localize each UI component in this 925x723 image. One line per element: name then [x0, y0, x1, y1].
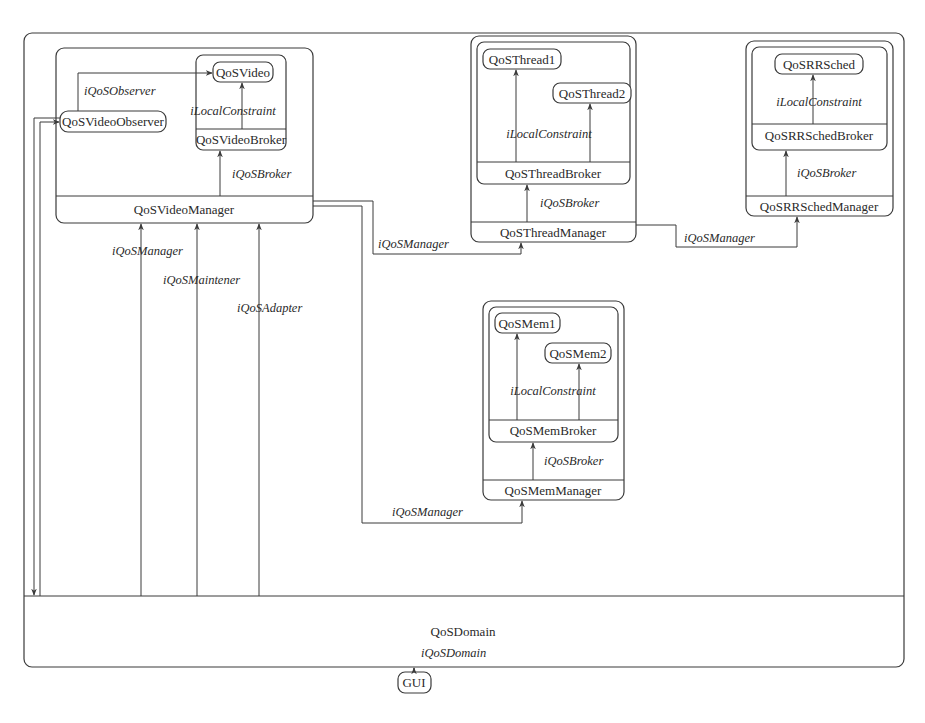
mem-manager-component: QoSMemManager QoSMemBroker QoSMem1 QoSMe…: [483, 301, 624, 500]
gui-component: GUI iQoSDomain: [398, 646, 486, 693]
thread-broker-interface: iQoSBroker: [540, 196, 599, 210]
rrsched-broker-label: QoSRRSchedBroker: [765, 128, 874, 143]
thread-manager-label: QoSThreadManager: [500, 225, 607, 240]
thread2-label: QoSThread2: [559, 86, 625, 101]
gui-interface: iQoSDomain: [421, 646, 486, 660]
domain-link-manager: iQoSManager: [112, 244, 183, 258]
rrsched-manager-label: QoSRRSchedManager: [760, 199, 879, 214]
video-constraint-interface: iLocalConstraint: [190, 104, 276, 118]
domain-link-maintener: iQoSMaintener: [163, 273, 240, 287]
rrsched-resource-label: QoSRRSched: [783, 57, 856, 72]
thread-link-interface: iQoSManager: [378, 237, 449, 251]
thread-constraint-interface: iLocalConstraint: [506, 127, 592, 141]
mem-broker-interface: iQoSBroker: [544, 454, 603, 468]
video-resource-label: QoSVideo: [216, 65, 270, 80]
rrsched-link-interface: iQoSManager: [684, 231, 755, 245]
rrsched-constraint-interface: iLocalConstraint: [776, 95, 862, 109]
qos-architecture-diagram: QoSDomain QoSVideoManager QoSVideoBroker…: [0, 0, 925, 723]
thread-broker-label: QoSThreadBroker: [505, 166, 602, 181]
gui-label: GUI: [402, 675, 425, 690]
domain-link-adapter: iQoSAdapter: [237, 301, 302, 315]
video-broker-interface: iQoSBroker: [232, 167, 291, 181]
thread1-label: QoSThread1: [489, 52, 555, 67]
video-manager-component: QoSVideoManager QoSVideoBroker QoSVideo …: [56, 48, 313, 223]
observer-interface: iQoSObserver: [84, 84, 156, 98]
qos-domain-label: QoSDomain: [431, 624, 497, 639]
mem-link-interface: iQoSManager: [392, 505, 463, 519]
mem-constraint-interface: iLocalConstraint: [510, 384, 596, 398]
mem1-label: QoSMem1: [498, 316, 555, 331]
mem-manager-label: QoSMemManager: [505, 483, 602, 498]
video-observer-label: QoSVideoObserver: [62, 114, 164, 129]
mem-broker-label: QoSMemBroker: [510, 423, 597, 438]
video-broker-label: QoSVideoBroker: [196, 132, 287, 147]
mem2-label: QoSMem2: [549, 346, 606, 361]
thread-manager-component: QoSThreadManager QoSThreadBroker QoSThre…: [471, 36, 636, 242]
rrsched-broker-interface: iQoSBroker: [797, 166, 856, 180]
rrsched-manager-component: QoSRRSchedManager QoSRRSchedBroker QoSRR…: [746, 41, 893, 216]
video-manager-label: QoSVideoManager: [134, 202, 235, 217]
